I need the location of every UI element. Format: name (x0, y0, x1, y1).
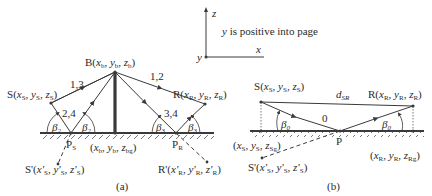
image-source-point-b (261, 157, 264, 160)
direct-path (261, 102, 413, 106)
panel-b: S(xS, yS, zS) R(xR, yR, zR) dSR 0 β0 β0 … (233, 80, 424, 193)
receiver-point (203, 102, 206, 105)
x-axis-label: x (255, 43, 261, 55)
barrier-base-point (113, 131, 116, 134)
path-label-2-4: 2,4 (62, 107, 76, 119)
axes-legend: z x y y is positive into page (196, 7, 318, 63)
path-label-0: 0 (322, 112, 328, 124)
angle-label-beta0-right: β0 (381, 118, 391, 132)
barrier-base-label: (xb, yb, zbg) (90, 141, 137, 155)
panel-a: B(xb, yb, zb) S(xS, yS, zS) R(xR, yR, zR… (7, 56, 227, 193)
receiver-ground-point (411, 129, 414, 132)
reflection-point-ps (69, 131, 72, 134)
receiver-point-b (411, 104, 414, 107)
reflected-path-incident (261, 102, 340, 131)
z-axis-label: z (211, 7, 217, 19)
direct-distance-label: dSR (336, 88, 350, 102)
reflection-label-ps: PS (66, 138, 76, 152)
barrier-top-label: B(xb, yb, zb) (85, 56, 136, 70)
reflection-label-pr: PR (172, 138, 183, 152)
source-label-b: S(xS, yS, zS) (254, 80, 305, 94)
angle-label-beta3-left: β3 (155, 121, 165, 135)
angle-arc-beta0-right (399, 114, 403, 131)
receiver-label-b: R(xR, yR, zR) (368, 88, 422, 102)
y-axis-origin-dot (205, 56, 208, 59)
angle-label-beta2-left: β2 (51, 121, 61, 135)
image-receiver-label: R'(x'R, y'R, z'R) (158, 163, 221, 177)
path-3-4-incident (115, 72, 176, 133)
source-ground-label: (xS, yS, zSg) (233, 139, 281, 153)
axes-note: y is positive into page (221, 25, 318, 37)
image-source-label-b: S'(x'S, y'S, z'S) (248, 161, 308, 175)
source-point-b (259, 100, 262, 103)
receiver-label: R(xR, yR, zR) (173, 88, 227, 102)
path-label-1-2: 1,2 (150, 70, 164, 82)
diagram-canvas: z x y y is positive into page (0, 0, 432, 196)
reflection-label-p: P (336, 135, 342, 147)
angle-arc-beta0-left (277, 112, 279, 131)
path-label-1-3: 1,3 (70, 78, 84, 90)
image-source-label: S'(x'S, y'S, z'S) (25, 163, 85, 177)
source-label: S(xS, yS, zS) (7, 88, 58, 102)
path-label-3-4: 3,4 (164, 107, 178, 119)
angle-label-beta0-left: β0 (280, 118, 290, 132)
reflection-point-p (338, 129, 341, 132)
y-axis-label: y (196, 51, 202, 63)
angle-label-beta2-right: β2 (81, 121, 91, 135)
source-ground-point (259, 129, 262, 132)
receiver-ground-label: (xR, yR, zRg) (370, 149, 420, 163)
z-axis-arrow-icon (204, 7, 208, 12)
reflection-point-pr (174, 131, 177, 134)
reflected-path-reflected (340, 106, 413, 131)
angle-label-beta3-right: β3 (187, 121, 197, 135)
caption-b: (b) (327, 180, 340, 193)
caption-a: (a) (116, 180, 129, 193)
